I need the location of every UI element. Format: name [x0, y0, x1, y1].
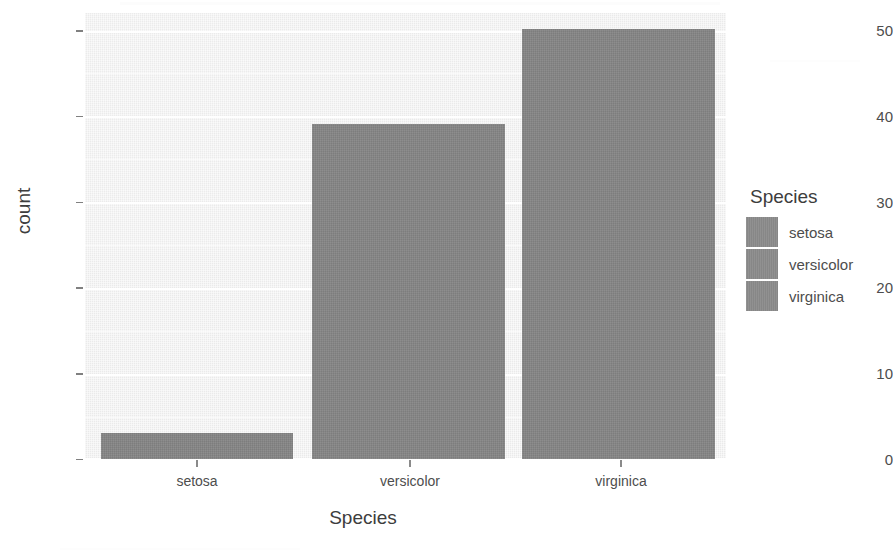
legend-label-setosa: setosa — [789, 224, 833, 241]
y-tick-label-0: 0 — [845, 452, 893, 467]
scan-artifact-bottom — [60, 548, 300, 550]
x-tick-label-versicolor: versicolor — [380, 473, 440, 489]
y-axis-title: count — [13, 111, 35, 311]
x-tick-mark-virginica — [620, 460, 622, 467]
scan-artifact-right — [770, 60, 860, 62]
y-tick-mark-20 — [76, 287, 83, 289]
y-tick-mark-50 — [76, 30, 83, 32]
plot-panel — [85, 13, 726, 459]
legend-label-versicolor: versicolor — [789, 256, 853, 273]
y-tick-label-10: 10 — [845, 366, 893, 381]
x-tick-label-setosa: setosa — [176, 473, 217, 489]
scan-artifact-top — [120, 2, 720, 5]
y-tick-mark-0 — [76, 459, 83, 461]
x-tick-mark-setosa — [196, 460, 198, 467]
y-tick-mark-10 — [76, 373, 83, 375]
legend-item-versicolor[interactable]: versicolor — [746, 248, 886, 280]
bar-setosa[interactable] — [101, 433, 293, 459]
y-tick-mark-30 — [76, 202, 83, 204]
bar-chart: 50 40 30 20 10 0 count setosa versicolor… — [0, 0, 893, 559]
legend-label-virginica: virginica — [789, 288, 844, 305]
y-tick-mark-40 — [76, 116, 83, 118]
legend-key-versicolor — [746, 249, 778, 279]
x-axis-title: Species — [0, 507, 726, 529]
x-tick-label-virginica: virginica — [595, 473, 646, 489]
legend: Species setosa versicolor virginica — [746, 186, 886, 312]
legend-title: Species — [746, 186, 886, 208]
y-tick-label-50: 50 — [845, 23, 893, 38]
legend-key-virginica — [746, 281, 778, 311]
legend-item-setosa[interactable]: setosa — [746, 216, 886, 248]
x-tick-mark-versicolor — [409, 460, 411, 467]
bar-virginica[interactable] — [522, 29, 715, 458]
y-tick-label-40: 40 — [845, 109, 893, 124]
legend-item-virginica[interactable]: virginica — [746, 280, 886, 312]
bar-versicolor[interactable] — [312, 124, 505, 459]
legend-key-setosa — [746, 217, 778, 247]
